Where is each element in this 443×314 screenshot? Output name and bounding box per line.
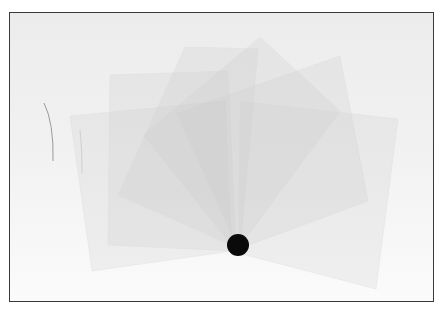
pivot-point	[227, 234, 249, 256]
scratch-1	[44, 103, 53, 161]
fanned-sheets-photo	[10, 13, 434, 302]
photo-frame	[9, 12, 434, 302]
sheet-6	[238, 101, 398, 289]
